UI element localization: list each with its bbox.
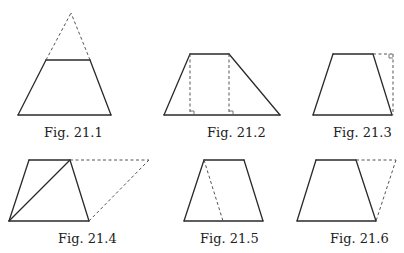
figure-caption-21-2: Fig. 21.2: [207, 125, 266, 140]
solid-edge: [297, 160, 316, 221]
figure-21-5: [184, 160, 263, 221]
solid-edge: [356, 160, 376, 221]
solid-edge: [229, 54, 280, 115]
solid-edge: [18, 60, 46, 115]
dashed-construction-line: [204, 160, 223, 221]
dashed-construction-line: [376, 160, 396, 221]
figure-caption-21-1: Fig. 21.1: [44, 125, 103, 140]
solid-edge: [70, 160, 89, 221]
solid-edge: [184, 160, 204, 221]
solid-edge: [313, 54, 333, 115]
figure-caption-21-5: Fig. 21.5: [200, 231, 259, 246]
solid-edge: [373, 54, 392, 115]
solid-edge: [9, 160, 70, 221]
dashed-construction-line: [46, 13, 71, 60]
figure-caption-21-4: Fig. 21.4: [58, 231, 117, 246]
dashed-construction-line: [71, 13, 90, 60]
solid-edge: [244, 160, 263, 221]
figure-caption-21-3: Fig. 21.3: [333, 125, 392, 140]
dashed-construction-line: [89, 160, 149, 221]
figure-caption-21-6: Fig. 21.6: [330, 231, 389, 246]
figure-21-1: [18, 13, 111, 115]
solid-edge: [90, 60, 111, 115]
figure-21-3: [313, 54, 393, 115]
solid-edge: [164, 54, 190, 115]
right-angle-marker-icon: [389, 54, 393, 58]
figure-21-2: [164, 54, 280, 115]
figure-21-4: [9, 160, 149, 221]
figure-21-6: [297, 160, 396, 221]
